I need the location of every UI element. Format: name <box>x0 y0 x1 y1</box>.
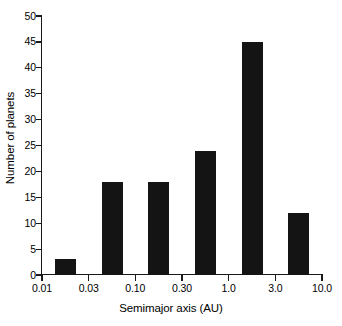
x-tick-mark <box>41 275 42 281</box>
bars-layer <box>0 16 342 275</box>
x-tick-mark <box>135 275 136 281</box>
x-tick-label: 3.0 <box>268 283 282 294</box>
x-tick-label: 0.10 <box>125 283 145 294</box>
x-tick-label: 0.03 <box>79 283 99 294</box>
histogram-bar <box>288 213 309 275</box>
histogram-bar <box>102 182 123 275</box>
x-tick-mark <box>275 275 276 281</box>
x-tick-mark <box>228 275 229 281</box>
histogram-bar <box>148 182 169 275</box>
x-tick-label: 10.0 <box>312 283 332 294</box>
x-tick-label: 0.01 <box>32 283 52 294</box>
histogram-figure: Number of planets 05101520253035404550 0… <box>0 0 342 326</box>
x-tick-label: 1.0 <box>222 283 236 294</box>
histogram-bar <box>55 259 76 275</box>
x-axis-title: Semimajor axis (AU) <box>0 302 342 314</box>
x-tick-mark <box>88 275 89 281</box>
x-tick-mark <box>321 275 322 281</box>
x-tick-label: 0.30 <box>172 283 192 294</box>
histogram-bar <box>195 151 216 275</box>
histogram-bar <box>242 42 263 275</box>
x-tick-mark <box>181 275 182 281</box>
